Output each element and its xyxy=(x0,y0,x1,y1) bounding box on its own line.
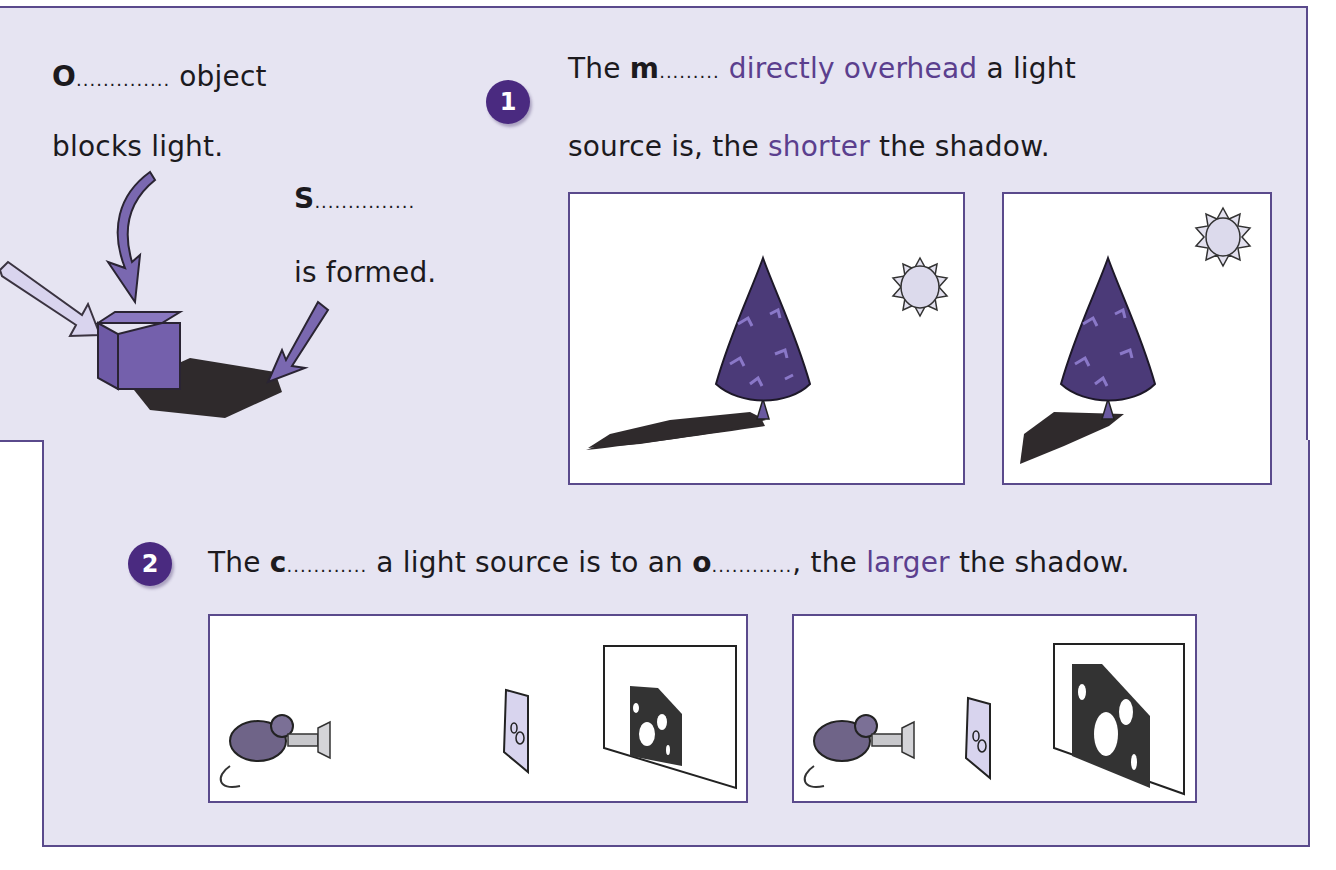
mouse-torch-icon xyxy=(805,715,914,787)
sun-icon xyxy=(893,258,947,316)
q1-accent: directly overhead xyxy=(720,52,978,85)
q2-blank-1[interactable]: ............ xyxy=(287,555,368,576)
tree-icon xyxy=(1061,258,1155,419)
question-2-line: The c............ a light source is to a… xyxy=(208,546,1130,583)
q1-letter: m xyxy=(630,52,659,85)
tree-icon xyxy=(716,258,810,419)
cheese-scene-near xyxy=(794,616,1195,801)
cheese-scene-far xyxy=(210,616,746,801)
cheese-icon xyxy=(966,698,990,778)
q1-line2-suffix: the shadow. xyxy=(870,130,1050,163)
q1-prefix: The xyxy=(568,52,630,85)
question-1-line-2: source is, the shorter the shadow. xyxy=(568,130,1050,164)
tree-frame-low-sun xyxy=(568,192,965,485)
opaque-blank[interactable]: .............. xyxy=(76,69,170,90)
q1-line2-prefix: source is, the xyxy=(568,130,768,163)
q2-letter-2: o xyxy=(692,546,711,579)
q1-line2-accent: shorter xyxy=(768,130,870,163)
opaque-letter: O xyxy=(52,60,76,93)
q2-comma: , the xyxy=(792,546,866,579)
tree-scene-short-shadow xyxy=(1004,194,1270,483)
mouse-torch-icon xyxy=(221,715,330,787)
shadow-arrow-icon xyxy=(268,302,328,382)
cube-front xyxy=(98,323,118,389)
q2-prefix: The xyxy=(208,546,270,579)
question-1-badge: 1 xyxy=(486,80,530,124)
q2-suffix: the shadow. xyxy=(950,546,1130,579)
cube-top xyxy=(98,312,180,323)
cheese-icon xyxy=(504,690,528,772)
q2-letter-1: c xyxy=(270,546,287,579)
sun-icon xyxy=(1196,208,1250,266)
opaque-suffix: object xyxy=(170,60,267,93)
panel-divider xyxy=(0,440,44,442)
q2-blank-2[interactable]: ............ xyxy=(712,555,793,576)
light-arrow-icon xyxy=(0,262,100,336)
screen-with-shadow xyxy=(604,646,736,788)
q1-suffix: a light xyxy=(977,52,1076,85)
cube-side xyxy=(118,323,180,389)
short-tree-shadow xyxy=(1020,412,1124,464)
q2-accent: larger xyxy=(866,546,950,579)
tree-scene-long-shadow xyxy=(570,194,963,483)
cheese-frame-near xyxy=(792,614,1197,803)
question-1-line-1: The m......... directly overhead a light xyxy=(568,52,1076,89)
question-2-badge: 2 xyxy=(128,542,172,586)
intro-blocks-light: blocks light. xyxy=(52,130,223,164)
q2-middle: a light source is to an xyxy=(367,546,692,579)
cube-shadow-illustration xyxy=(0,160,340,430)
tree-frame-high-sun xyxy=(1002,192,1272,485)
q1-blank[interactable]: ......... xyxy=(659,61,720,82)
curved-arrow-icon xyxy=(108,172,155,302)
screen-with-shadow xyxy=(1054,644,1184,794)
intro-opaque-line: O.............. object xyxy=(52,60,267,97)
cheese-frame-far xyxy=(208,614,748,803)
